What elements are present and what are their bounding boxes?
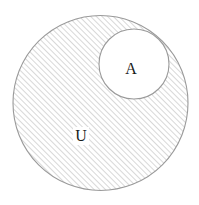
universal-set-hatched-region — [0, 0, 199, 205]
universal-set-label: U — [75, 127, 87, 144]
venn-diagram-svg: A U — [0, 0, 199, 205]
set-a-label: A — [125, 60, 137, 77]
set-diagram-canvas: A U — [0, 0, 199, 205]
